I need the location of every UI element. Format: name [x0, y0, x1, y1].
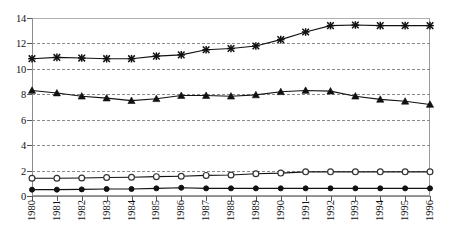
gridline	[32, 94, 430, 95]
y-tick-label: 14	[0, 13, 26, 24]
y-tick-label: 2	[0, 165, 26, 176]
y-tick-label: 10	[0, 63, 26, 74]
x-tick-label: 1987	[200, 200, 211, 221]
x-tick-label: 1989	[250, 200, 261, 221]
y-axis-line	[32, 18, 33, 196]
x-tick-label: 1983	[101, 200, 112, 221]
gridline	[32, 145, 430, 146]
gridline	[32, 43, 430, 44]
x-tick-label: 1996	[424, 200, 435, 221]
x-tick-label: 1991	[300, 200, 311, 221]
x-tick-label: 1994	[374, 200, 385, 221]
gridline	[32, 171, 430, 172]
x-tick-label: 1988	[225, 200, 236, 221]
x-tick-label: 1985	[150, 200, 161, 221]
x-tick-label: 1982	[76, 200, 87, 221]
plot-area	[32, 18, 430, 196]
gridline	[32, 120, 430, 121]
x-tick-label: 1995	[399, 200, 410, 221]
y-tick-label: 4	[0, 140, 26, 151]
y-tick-label: 6	[0, 114, 26, 125]
line-chart: 02468101214 1980198119821983198419851986…	[0, 0, 458, 237]
y-tick-label: 12	[0, 38, 26, 49]
x-tick-label: 1986	[175, 200, 186, 221]
x-tick-label: 1990	[275, 200, 286, 221]
x-tick-label: 1980	[26, 200, 37, 221]
x-tick-label: 1984	[126, 200, 137, 221]
y-tick-label: 0	[0, 191, 26, 202]
gridline	[32, 69, 430, 70]
y-tick-label: 8	[0, 89, 26, 100]
x-tick-label: 1992	[325, 200, 336, 221]
x-tick-label: 1981	[51, 200, 62, 221]
x-tick-label: 1993	[349, 200, 360, 221]
